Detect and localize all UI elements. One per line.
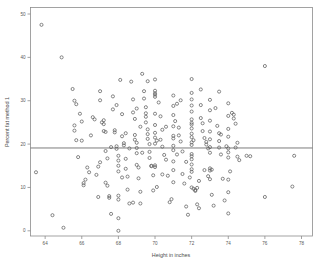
x-axis-ticks: 6466687072747678 [43,236,305,246]
x-tick-label: 64 [43,241,49,246]
x-axis-title: Height in inches [152,252,191,258]
plot-svg: 01020304050 6466687072747678 Height in i… [0,0,320,262]
x-tick-label: 66 [79,241,85,246]
scatter-plot-figure: 01020304050 6466687072747678 Height in i… [0,0,320,262]
y-tick-label: 10 [20,185,26,190]
y-tick-label: 0 [23,228,26,233]
x-tick-label: 76 [262,241,268,246]
y-axis-ticks: 01020304050 [20,12,30,234]
x-tick-label: 70 [152,241,158,246]
x-tick-label: 74 [226,241,232,246]
y-axis-title: Percent fat method 1 [4,97,10,147]
y-tick-label: 30 [20,98,26,103]
y-tick-label: 40 [20,55,26,60]
x-tick-label: 72 [189,241,195,246]
y-tick-label: 50 [20,12,26,17]
y-tick-label: 20 [20,142,26,147]
x-tick-label: 68 [116,241,122,246]
x-tick-label: 78 [299,241,305,246]
